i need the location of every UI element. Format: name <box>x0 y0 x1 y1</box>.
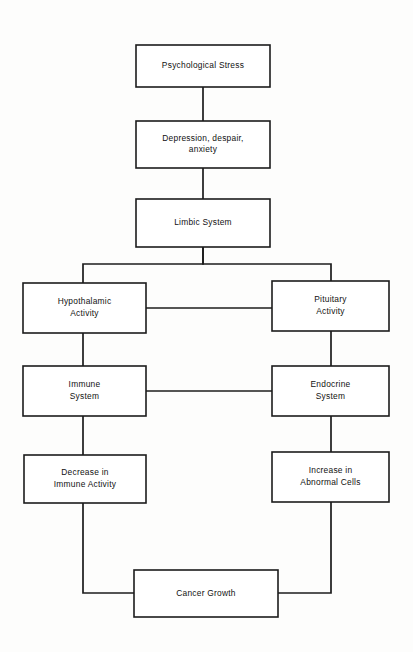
flowchart-svg: Psychological StressDepression, despair,… <box>0 0 413 652</box>
node-label-cancer-growth: Cancer Growth <box>176 588 236 598</box>
connector-limbic-to-hypothalamic <box>83 247 203 283</box>
node-label-immune-system: Immune <box>69 379 101 389</box>
node-label-increase-in-abnormal-cells: Increase in <box>309 465 353 475</box>
connector-limbic-to-pituitary <box>203 247 331 281</box>
node-psychological-stress[interactable]: Psychological Stress <box>136 45 270 87</box>
node-pituitary-activity[interactable]: PituitaryActivity <box>272 281 389 331</box>
node-layer: Psychological StressDepression, despair,… <box>23 45 389 617</box>
node-cancer-growth[interactable]: Cancer Growth <box>134 570 278 617</box>
node-hypothalamic-activity[interactable]: HypothalamicActivity <box>23 283 146 333</box>
node-label-decrease-in-immune-activity: Immune Activity <box>54 479 117 489</box>
node-label-limbic-system: Limbic System <box>174 217 232 227</box>
node-label-pituitary-activity: Pituitary <box>314 294 347 304</box>
connector-increase-to-cancer <box>278 502 331 593</box>
flowchart-canvas: Psychological StressDepression, despair,… <box>0 0 413 652</box>
node-decrease-in-immune-activity[interactable]: Decrease inImmune Activity <box>24 455 146 503</box>
node-label-immune-system: System <box>70 391 99 401</box>
node-label-depression-despair-anxiety: anxiety <box>189 144 218 154</box>
connector-decrease-to-cancer <box>83 503 134 593</box>
node-immune-system[interactable]: ImmuneSystem <box>23 366 146 416</box>
node-label-pituitary-activity: Activity <box>316 306 345 316</box>
node-label-increase-in-abnormal-cells: Abnormal Cells <box>300 477 360 487</box>
node-depression-despair-anxiety[interactable]: Depression, despair,anxiety <box>136 121 270 168</box>
node-label-hypothalamic-activity: Activity <box>70 308 99 318</box>
node-limbic-system[interactable]: Limbic System <box>136 199 270 247</box>
node-label-depression-despair-anxiety: Depression, despair, <box>162 133 243 143</box>
node-label-decrease-in-immune-activity: Decrease in <box>61 467 109 477</box>
node-label-endocrine-system: System <box>316 391 345 401</box>
node-label-psychological-stress: Psychological Stress <box>162 60 244 70</box>
node-increase-in-abnormal-cells[interactable]: Increase inAbnormal Cells <box>272 452 389 502</box>
node-label-hypothalamic-activity: Hypothalamic <box>58 296 112 306</box>
node-endocrine-system[interactable]: EndocrineSystem <box>272 366 389 416</box>
node-label-endocrine-system: Endocrine <box>311 379 351 389</box>
